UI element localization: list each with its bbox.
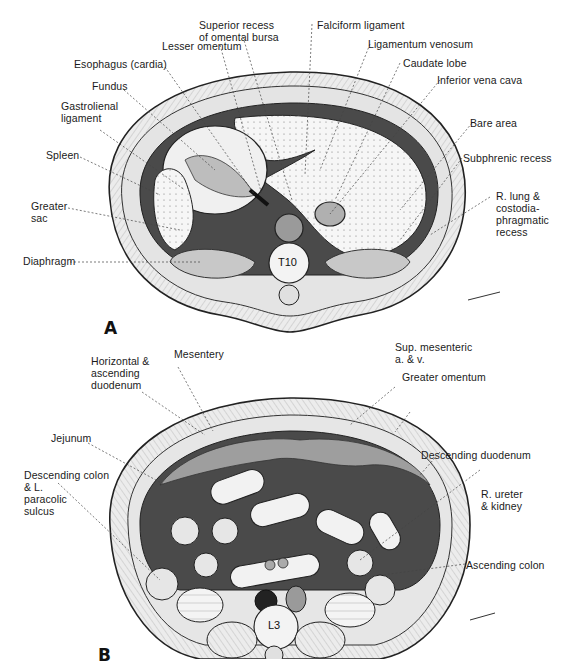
vertebra-label-t10: T10 <box>278 256 297 268</box>
label-lesser-omentum: Lesser omentum <box>162 40 242 52</box>
label-subphrenic-recess: Subphrenic recess <box>463 152 552 164</box>
vertebra-label-l3: L3 <box>268 619 280 631</box>
label-r-ureter-kidney: R. ureter & kidney <box>481 488 523 512</box>
label-caudate-lobe: Caudate lobe <box>403 57 467 69</box>
label-r-lung-costodiaphragmatic-recess: R. lung & costodia- phragmatic recess <box>496 190 549 238</box>
label-diaphragm: Diaphragm <box>23 255 75 267</box>
label-descending-colon-paracolic-sulcus: Descending colon & L. paracolic sulcus <box>24 469 109 517</box>
label-fundus: Fundus <box>92 80 128 92</box>
label-falciform-ligament: Falciform ligament <box>317 19 405 31</box>
label-esophagus: Esophagus (cardia) <box>74 58 167 70</box>
figure-a-t10-section: T10 A Superior recess of omental bursa L… <box>0 0 567 335</box>
label-gastrolienal-ligament: Gastrolienal ligament <box>61 100 118 124</box>
t10-cross-section-illustration <box>0 0 567 335</box>
figure-b-l3-section: L3 B Horizontal & ascending duodenum Mes… <box>0 335 567 659</box>
label-spleen: Spleen <box>46 149 79 161</box>
label-bare-area: Bare area <box>470 117 517 129</box>
label-greater-sac: Greater sac <box>31 200 67 224</box>
panel-letter-b: B <box>98 645 111 665</box>
label-inferior-vena-cava: Inferior vena cava <box>437 74 522 86</box>
label-descending-duodenum: Descending duodenum <box>421 449 531 461</box>
label-ascending-colon: Ascending colon <box>466 559 545 571</box>
label-mesentery: Mesentery <box>174 348 224 360</box>
label-horizontal-ascending-duodenum: Horizontal & ascending duodenum <box>91 355 149 391</box>
label-greater-omentum: Greater omentum <box>402 371 486 383</box>
label-sup-mesenteric-a-v: Sup. mesenteric a. & v. <box>395 341 472 365</box>
label-jejunum: Jejunum <box>51 432 91 444</box>
label-ligamentum-venosum: Ligamentum venosum <box>368 38 473 50</box>
